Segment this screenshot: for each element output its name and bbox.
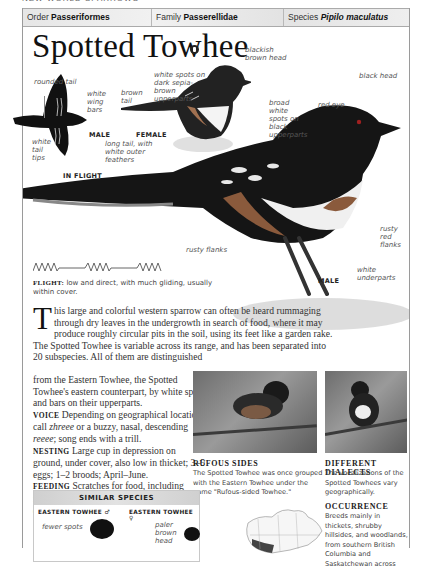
label-black-head: black head xyxy=(359,72,397,80)
dropcap: T xyxy=(33,307,52,331)
similar-species-box: SIMILAR SPECIES EASTERN TOWHEE ♂ EASTERN… xyxy=(33,490,200,562)
eastern-towhee-female-image xyxy=(184,527,200,541)
range-map xyxy=(238,505,328,555)
rufous-sides-text: The Spotted Towhee was once grouped with… xyxy=(193,469,323,498)
family-cell: Family Passerellidae xyxy=(152,9,284,26)
order-value: Passeriformes xyxy=(51,12,110,22)
taxonomy-header: Order Passeriformes Family Passerellidae… xyxy=(23,8,409,27)
species-cell: Species Pipilo maculatus xyxy=(284,9,409,26)
family-value: Passerellidae xyxy=(183,12,237,22)
occurrence-title: OCCURRENCE xyxy=(325,502,388,511)
nesting-section: NESTING Large cup in depression on groun… xyxy=(33,445,205,481)
label-white-underparts: white underparts xyxy=(357,266,397,282)
voice-heading: VOICE xyxy=(33,411,59,420)
species-label: Species xyxy=(288,12,318,22)
label-blackish-brown-head: blackish brown head xyxy=(245,46,293,62)
label-long-tail: long tail, with white outer feathers xyxy=(105,140,153,164)
male-bird-illustration xyxy=(23,88,409,338)
occurrence-text: Breeds mainly in thickets, shrubby hills… xyxy=(325,512,409,570)
running-head: NEW WORLD SPARROWS xyxy=(22,0,139,3)
flight-label: FLIGHT: xyxy=(33,279,64,287)
similar-species-eastern-female: EASTERN TOWHEE ♀ xyxy=(129,509,199,521)
flight-pattern-icon xyxy=(33,260,173,272)
label-broad-white-spots: broad white spots on black upperparts xyxy=(269,99,307,139)
nesting-heading: NESTING xyxy=(33,447,70,456)
label-fewer-spots: fewer spots xyxy=(42,523,83,531)
similar-species-eastern-male: EASTERN TOWHEE ♂ xyxy=(38,509,110,515)
intro-continued: from the Eastern Towhee, the Spotted Tow… xyxy=(33,374,205,409)
label-rounded-tail: rounded tail xyxy=(34,78,76,86)
order-cell: Order Passeriformes xyxy=(23,9,152,26)
label-rusty-flanks: rusty flanks xyxy=(186,246,227,254)
male-label: MALE xyxy=(318,277,339,285)
label-red-eye: red eye xyxy=(318,101,345,109)
different-dialects-photo xyxy=(325,371,407,453)
similar-species-heading: SIMILAR SPECIES xyxy=(34,491,199,505)
different-dialects-text: The vocalizations of the Spotted Towhees… xyxy=(325,469,407,498)
field-guide-page: Order Passeriformes Family Passerellidae… xyxy=(22,8,410,548)
rufous-sides-title: RUFOUS SIDES xyxy=(193,459,258,468)
label-rusty-red-flanks: rusty red flanks xyxy=(380,225,408,249)
voice-section: VOICE Depending on geographical location… xyxy=(33,409,205,445)
flight-description: FLIGHT: low and direct, with much glidin… xyxy=(33,279,213,297)
order-label: Order xyxy=(27,12,49,22)
intro-paragraph: This large and colorful western sparrow … xyxy=(33,305,333,363)
female-symbol-icon: ♀ xyxy=(129,515,134,521)
eastern-towhee-male-image xyxy=(90,519,114,539)
family-label: Family xyxy=(156,12,181,22)
species-value: Pipilo maculatus xyxy=(321,12,389,22)
rufous-sides-photo xyxy=(193,371,317,453)
male-symbol-icon: ♂ xyxy=(104,509,110,515)
